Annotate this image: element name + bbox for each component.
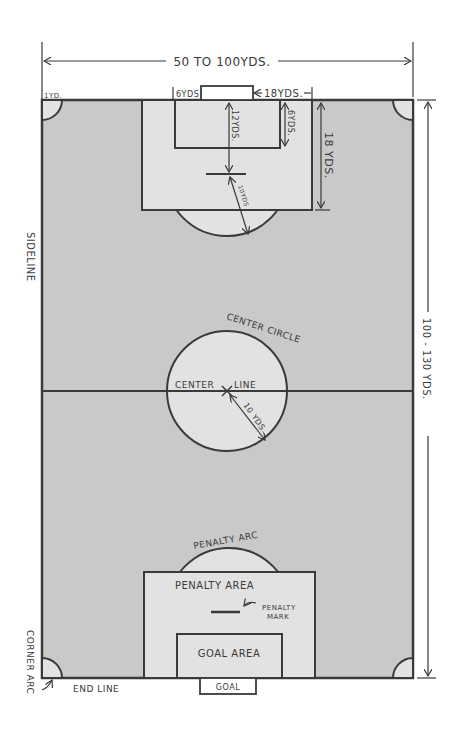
top-goal [201, 86, 253, 100]
end-line-label: END LINE [73, 684, 119, 694]
goal-label: GOAL [216, 683, 240, 692]
width-label: 50 TO 100YDS. [173, 55, 270, 69]
penalty-area-label: PENALTY AREA [175, 580, 254, 591]
soccer-field-diagram: 50 TO 100YDS. 1YD. 6YDS 18YDS. 12YDS. 6Y… [0, 0, 464, 737]
center-line-label-left: CENTER [175, 380, 214, 390]
top-goal-area [175, 100, 280, 148]
center-line-label-right: LINE [234, 380, 256, 390]
length-label: 100 - 130 YDS. [421, 318, 432, 400]
goal-area-width-label: 6YDS [176, 90, 199, 99]
corner-size-label: 1YD. [44, 92, 62, 100]
penalty-area-width-label: 18YDS. [264, 88, 303, 99]
penalty-mark-label-1: PENALTY [262, 604, 296, 612]
penalty-spot-distance-label: 12YDS. [230, 110, 239, 142]
penalty-area-depth-label: 18 YDS. [322, 132, 335, 179]
corner-arc-label: CORNER ARC [25, 630, 35, 694]
goal-area-label: GOAL AREA [198, 648, 260, 659]
sideline-label: SIDELINE [25, 232, 36, 282]
penalty-mark-label-2: MARK [267, 613, 289, 621]
goal-area-depth-label: 6YDS. [286, 110, 295, 136]
corner-arc-pointer-arrow [42, 680, 52, 690]
